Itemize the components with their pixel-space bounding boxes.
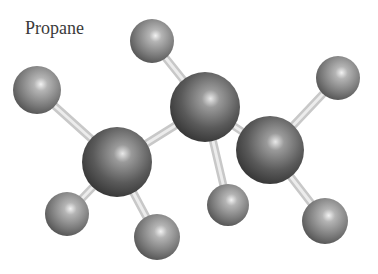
- carbon-atom-C3: [236, 116, 304, 184]
- atoms: [13, 19, 360, 260]
- hydrogen-atom-H5: [134, 214, 180, 260]
- propane-ball-and-stick-model: [0, 0, 378, 274]
- hydrogen-atom-H4: [45, 192, 89, 236]
- carbon-atom-C2: [170, 72, 240, 142]
- hydrogen-atom-H6: [207, 184, 249, 226]
- hydrogen-atom-H3: [316, 56, 360, 100]
- hydrogen-atom-H2: [130, 19, 174, 63]
- hydrogen-atom-H7: [302, 198, 348, 244]
- hydrogen-atom-H1: [13, 66, 61, 114]
- carbon-atom-C1: [82, 127, 152, 197]
